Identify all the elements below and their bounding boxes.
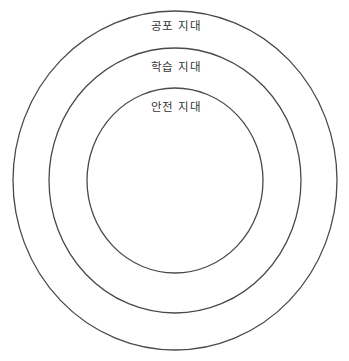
comfort-zone-label: 안전 지대 xyxy=(151,102,201,114)
learning-zone-label: 학습 지대 xyxy=(151,62,201,74)
fear-zone-label: 공포 지대 xyxy=(151,21,201,33)
comfort-zone-ring xyxy=(87,88,263,273)
concentric-zones-diagram xyxy=(0,0,349,361)
